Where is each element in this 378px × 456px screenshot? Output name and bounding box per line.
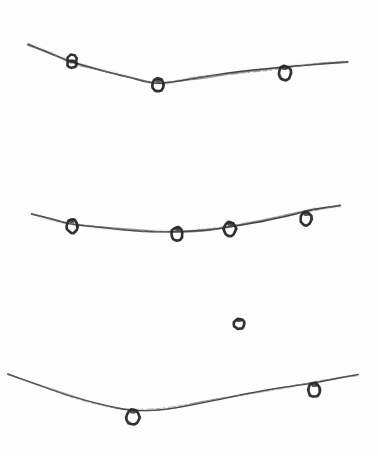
ring-cap xyxy=(69,219,75,223)
perched-figure-1 xyxy=(66,54,77,68)
wire-middle-stroke-pass2 xyxy=(33,206,341,232)
perched-figure-7 xyxy=(301,212,312,226)
perched-figure-5 xyxy=(172,227,183,241)
perched-figure-9 xyxy=(308,383,320,397)
ring-cap xyxy=(236,319,242,322)
perched-figure-4 xyxy=(67,219,78,233)
wire-middle-texture xyxy=(33,205,341,232)
markers-group xyxy=(66,54,320,424)
floating-figure-1 xyxy=(234,319,245,329)
sketch-drawing xyxy=(0,0,378,456)
ring-cap xyxy=(174,227,180,231)
wires-group xyxy=(7,43,358,410)
ring-cap xyxy=(311,383,318,387)
perched-figure-8 xyxy=(126,409,140,424)
ring-cap xyxy=(303,212,309,216)
ring-cap xyxy=(129,409,136,414)
ring-cap xyxy=(227,222,234,226)
sketch-canvas: Hand-drawn sketch of birds perched on sa… xyxy=(0,0,378,456)
ring-cap xyxy=(155,78,162,82)
wire-bottom-smudge xyxy=(8,374,359,411)
ring-cap xyxy=(281,66,288,70)
perched-figure-6 xyxy=(223,222,236,236)
perched-figure-3 xyxy=(279,66,291,81)
